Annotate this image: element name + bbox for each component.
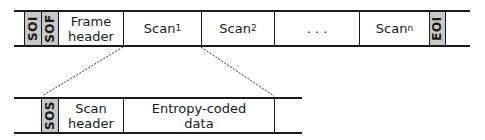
sos-marker: SOS [41,99,58,132]
right-connector-line [201,47,274,96]
scan-bottom-line [14,132,302,134]
entropy-coded-data-cell: Entropy-coded data [123,99,275,132]
scan-header-cell: Scan header [58,99,123,132]
left-connector-line [42,47,123,96]
